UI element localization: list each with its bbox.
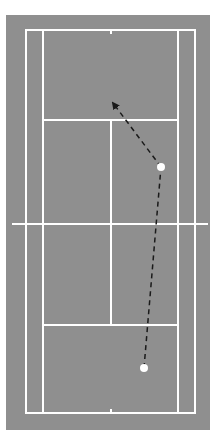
player-hit-marker: [157, 163, 165, 171]
court-diagram: [0, 0, 223, 442]
court-surface: [6, 15, 210, 430]
player-start-marker: [140, 364, 148, 372]
